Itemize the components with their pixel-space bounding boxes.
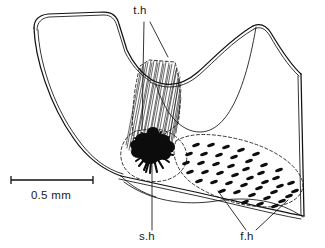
right-edge-outer bbox=[301, 74, 304, 216]
label-fh: f.h bbox=[240, 230, 253, 242]
left-flank-outer bbox=[34, 28, 121, 176]
top-ridge-inner bbox=[150, 29, 254, 87]
sensory-hair-tuft bbox=[121, 127, 187, 182]
th-leader-2 bbox=[150, 22, 168, 57]
feathered-hair-field bbox=[174, 135, 303, 209]
left-flank-inner bbox=[38, 30, 123, 174]
scale-bar-caption: 0.5 mm bbox=[31, 189, 71, 201]
fh-leader-1 bbox=[218, 191, 246, 230]
body-outline-group bbox=[34, 12, 304, 219]
line-drawing-canvas: 0.5 mm t.h s.h f.h bbox=[0, 0, 325, 248]
right-peak-inner bbox=[254, 28, 299, 76]
labels-group: t.h s.h f.h bbox=[133, 4, 253, 242]
label-th: t.h bbox=[133, 4, 146, 16]
scale-bar-group: 0.5 mm bbox=[11, 176, 93, 201]
right-peak-outer bbox=[253, 25, 301, 74]
label-sh: s.h bbox=[139, 230, 155, 242]
figure-container: 0.5 mm t.h s.h f.h bbox=[0, 0, 325, 248]
sensory-blob bbox=[130, 127, 175, 164]
outer-margin-left-inner bbox=[37, 15, 150, 81]
outer-margin-left bbox=[34, 12, 152, 80]
